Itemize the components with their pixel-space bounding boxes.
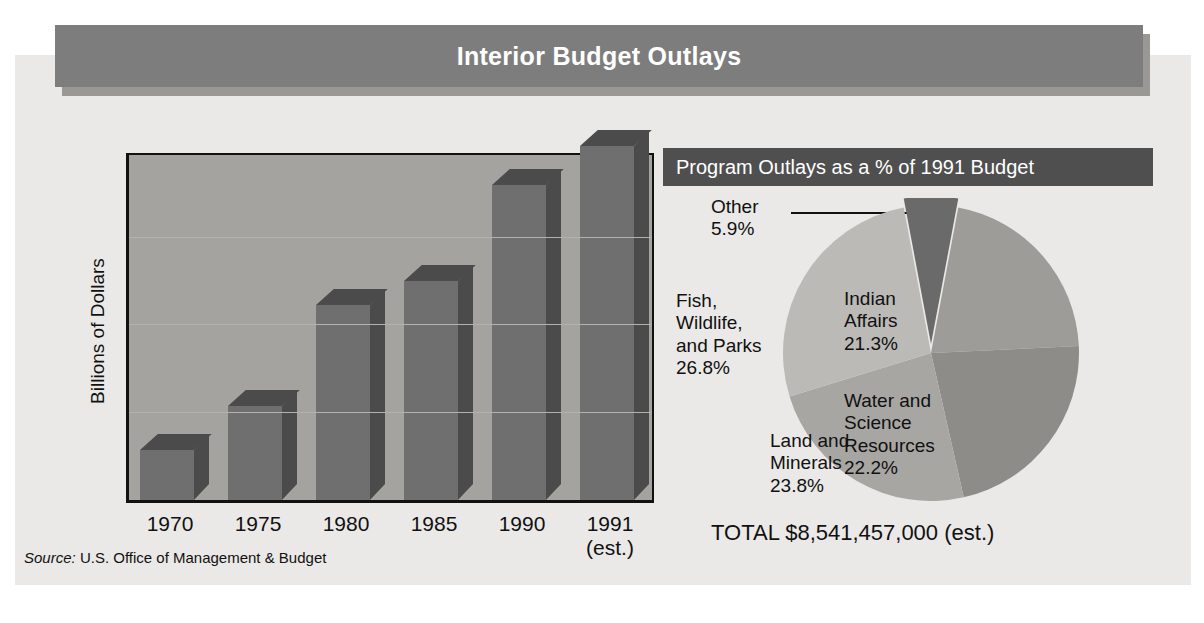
x-axis-labels: 197019751980198519901991(est.) bbox=[126, 512, 654, 582]
pie-slice-label-line: 22.2% bbox=[844, 457, 935, 479]
y-axis-label: Billions of Dollars bbox=[87, 231, 109, 431]
bar bbox=[228, 406, 282, 500]
bar-side-face bbox=[458, 265, 473, 500]
bar-front-face bbox=[580, 146, 634, 500]
infographic-root: Interior Budget Outlays Billions of Doll… bbox=[0, 0, 1204, 623]
bar-side-face bbox=[634, 130, 649, 500]
other-callout-value: 5.9% bbox=[711, 218, 759, 240]
x-tick-label: 1980 bbox=[301, 512, 391, 536]
pie-slice-label-line: Land and bbox=[770, 430, 849, 452]
pie-subtitle: Program Outlays as a % of 1991 Budget bbox=[676, 156, 1034, 179]
bar-plot-area bbox=[126, 153, 654, 503]
other-callout: Other 5.9% bbox=[711, 196, 759, 241]
pie-slice bbox=[931, 208, 1079, 353]
page-title: Interior Budget Outlays bbox=[457, 42, 742, 71]
x-tick-label: 1985 bbox=[389, 512, 479, 536]
gridline bbox=[129, 324, 652, 325]
other-callout-label: Other bbox=[711, 196, 759, 218]
gridline bbox=[129, 237, 652, 238]
pie-slice-label-line: Indian bbox=[844, 288, 898, 310]
bar-side-face bbox=[282, 390, 297, 500]
bar-side-face bbox=[546, 169, 561, 500]
bar bbox=[316, 305, 370, 500]
pie-slice-label: Fish,Wildlife,and Parks26.8% bbox=[676, 290, 762, 380]
bar-front-face bbox=[404, 281, 458, 500]
pie-slice-label-line: Minerals bbox=[770, 452, 849, 474]
bar-front-face bbox=[140, 450, 194, 500]
source-prefix: Source: bbox=[24, 549, 76, 566]
bar bbox=[404, 281, 458, 500]
bar-front-face bbox=[316, 305, 370, 500]
x-tick-line2: (est.) bbox=[565, 536, 655, 560]
title-banner: Interior Budget Outlays bbox=[55, 25, 1143, 87]
pie-slice-label: Land andMinerals23.8% bbox=[770, 430, 849, 497]
pie-slice-label-line: Water and bbox=[844, 390, 935, 412]
bar-series bbox=[129, 155, 652, 500]
bar-chart: Billions of Dollars 02468 19701975198019… bbox=[20, 140, 645, 595]
pie-slice-label-line: and Parks bbox=[676, 335, 762, 357]
bar bbox=[580, 146, 634, 500]
pie-total: TOTAL $8,541,457,000 (est.) bbox=[711, 520, 994, 546]
bar bbox=[140, 450, 194, 500]
x-tick-line1: 1975 bbox=[213, 512, 303, 536]
pie-slice-label-line: Wildlife, bbox=[676, 312, 762, 334]
pie-slice-label: IndianAffairs21.3% bbox=[844, 288, 898, 355]
bar-front-face bbox=[492, 185, 546, 500]
x-tick-line1: 1980 bbox=[301, 512, 391, 536]
pie-slice-label-line: Affairs bbox=[844, 310, 898, 332]
x-tick-line1: 1985 bbox=[389, 512, 479, 536]
pie-subtitle-banner: Program Outlays as a % of 1991 Budget bbox=[663, 148, 1153, 186]
pie-chart: Program Outlays as a % of 1991 Budget Ot… bbox=[648, 140, 1188, 595]
source-text: U.S. Office of Management & Budget bbox=[80, 549, 327, 566]
gridline bbox=[129, 412, 652, 413]
bar bbox=[492, 185, 546, 500]
bar-front-face bbox=[228, 406, 282, 500]
x-tick-label: 1975 bbox=[213, 512, 303, 536]
source-note: Source: U.S. Office of Management & Budg… bbox=[24, 549, 326, 566]
pie-slice-label-line: Science bbox=[844, 412, 935, 434]
x-tick-line1: 1991 bbox=[565, 512, 655, 536]
bar-side-face bbox=[370, 289, 385, 500]
pie-slice-label-line: Resources bbox=[844, 435, 935, 457]
pie-slice-label-line: 21.3% bbox=[844, 333, 898, 355]
x-tick-label: 1990 bbox=[477, 512, 567, 536]
pie-slice-label: Water andScienceResources22.2% bbox=[844, 390, 935, 480]
x-tick-line1: 1990 bbox=[477, 512, 567, 536]
pie-slice-label-line: 23.8% bbox=[770, 475, 849, 497]
x-tick-label: 1991(est.) bbox=[565, 512, 655, 559]
x-tick-label: 1970 bbox=[125, 512, 215, 536]
pie-slice-label-line: 26.8% bbox=[676, 357, 762, 379]
x-tick-line1: 1970 bbox=[125, 512, 215, 536]
pie-slice-label-line: Fish, bbox=[676, 290, 762, 312]
